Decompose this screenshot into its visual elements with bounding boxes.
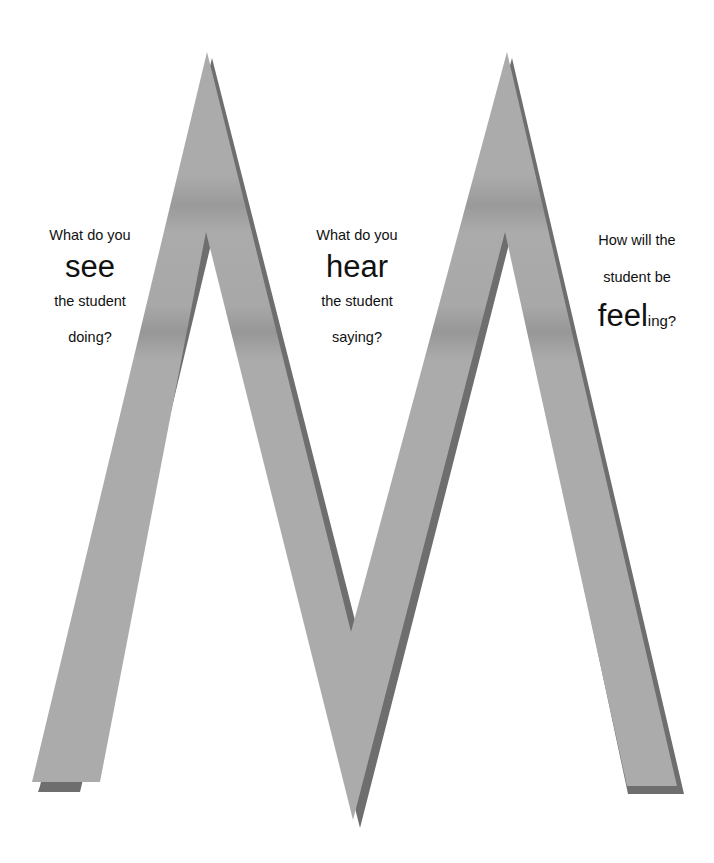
see-line1: What do you: [30, 228, 150, 243]
feel-keyword-row: feeling?: [572, 300, 702, 331]
feel-keyword: feel: [598, 298, 648, 333]
m-shape: [32, 52, 677, 820]
hear-line2: the student: [292, 294, 422, 309]
see-line2: the student: [30, 294, 150, 309]
hear-line3: saying?: [292, 330, 422, 345]
see-keyword: see: [30, 251, 150, 282]
hear-line1: What do you: [292, 228, 422, 243]
prompt-see: What do you see the student doing?: [30, 228, 150, 345]
see-line3: doing?: [30, 330, 150, 345]
feel-line2: student be: [572, 270, 702, 285]
prompt-hear: What do you hear the student saying?: [292, 228, 422, 345]
prompt-feel: How will the student be feeling?: [572, 233, 702, 331]
feel-suffix: ing?: [648, 312, 676, 329]
m-shape-graphic: [0, 0, 714, 863]
hear-keyword: hear: [292, 251, 422, 282]
feel-line1: How will the: [572, 233, 702, 248]
